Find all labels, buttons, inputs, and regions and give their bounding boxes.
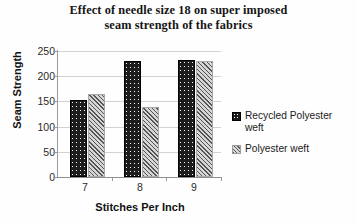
bar-group-9 [178,51,218,177]
chart-legend: Recycled Polyester weft Polyester weft [232,110,352,164]
y-tick-label-0: 0 [21,171,55,183]
legend-swatch-icon-polyester [232,145,241,154]
bar-recycled-7 [70,100,87,177]
y-tick-label-150: 150 [21,95,55,107]
legend-label-polyester: Polyester weft [245,143,309,155]
x-category-label-7: 7 [60,181,110,193]
bar-recycled-8 [124,61,141,177]
bar-polyester-8 [142,107,159,177]
legend-label-recycled: Recycled Polyester weft [245,110,332,134]
chart-title-line-1: Effect of needle size 18 on super impose… [0,3,357,18]
x-axis-title: Stitches Per Inch [40,201,240,213]
chart-title-line-2: seam strength of the fabrics [0,18,357,33]
y-tick-label-250: 250 [21,45,55,57]
legend-label-recycled-line-1: Recycled Polyester [245,110,332,121]
bar-recycled-9 [178,60,195,177]
legend-item-recycled-polyester-weft: Recycled Polyester weft [232,110,352,134]
chart-title: Effect of needle size 18 on super impose… [0,3,357,33]
x-category-label-9: 9 [169,181,219,193]
x-tick-mark [221,177,222,181]
x-category-label-8: 8 [115,181,165,193]
y-tick-label-200: 200 [21,70,55,82]
legend-swatch-icon-recycled [232,112,241,121]
plot-area [58,51,221,177]
bar-polyester-9 [196,61,213,177]
legend-label-recycled-line-2: weft [245,122,264,133]
x-tick-mark [166,177,167,181]
bar-group-7 [70,51,110,177]
y-tick-label-100: 100 [21,121,55,133]
bar-chart: Effect of needle size 18 on super impose… [0,0,357,224]
y-tick-label-50: 50 [21,146,55,158]
bar-group-8 [124,51,164,177]
x-axis-line [57,177,222,178]
bar-polyester-7 [88,94,105,177]
legend-item-polyester-weft: Polyester weft [232,143,352,155]
x-tick-mark [112,177,113,181]
